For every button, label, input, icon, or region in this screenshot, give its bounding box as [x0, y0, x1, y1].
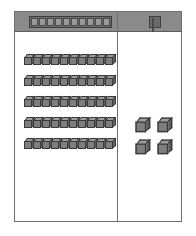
cube-front-face — [24, 57, 32, 65]
cube-front-face — [42, 78, 50, 86]
header-rod-pip — [87, 18, 94, 26]
rod-unit-cube[interactable] — [96, 138, 105, 147]
ten-rod[interactable] — [24, 138, 114, 147]
rod-unit-cube[interactable] — [105, 54, 114, 63]
rod-unit-cube[interactable] — [96, 96, 105, 105]
rod-unit-cube[interactable] — [60, 138, 69, 147]
rod-unit-cube[interactable] — [42, 96, 51, 105]
rod-unit-cube[interactable] — [24, 117, 33, 126]
cube-front-face — [87, 141, 95, 149]
cube-front-face — [87, 120, 95, 128]
cube-front-face — [24, 141, 32, 149]
rod-unit-cube[interactable] — [51, 75, 60, 84]
cube-side-face — [113, 96, 116, 106]
rod-unit-cube[interactable] — [96, 75, 105, 84]
rod-unit-cube[interactable] — [96, 54, 105, 63]
cube-front-face — [96, 78, 104, 86]
cube-front-face — [96, 99, 104, 107]
ten-rod[interactable] — [24, 54, 114, 63]
rod-unit-cube[interactable] — [24, 75, 33, 84]
rod-unit-cube[interactable] — [51, 54, 60, 63]
rod-unit-cube[interactable] — [42, 138, 51, 147]
rod-unit-cube[interactable] — [60, 117, 69, 126]
rod-unit-cube[interactable] — [60, 75, 69, 84]
rod-unit-cube[interactable] — [69, 138, 78, 147]
rod-unit-cube[interactable] — [24, 138, 33, 147]
cube-front-face — [51, 99, 59, 107]
rod-unit-cube[interactable] — [69, 75, 78, 84]
rod-unit-cube[interactable] — [60, 96, 69, 105]
rod-unit-cube[interactable] — [33, 54, 42, 63]
cube-front-face — [78, 57, 86, 65]
tens-header-rod-icon — [29, 16, 112, 28]
cube-front-face — [135, 143, 146, 154]
rod-unit-cube[interactable] — [60, 54, 69, 63]
rod-unit-cube[interactable] — [87, 96, 96, 105]
rod-unit-cube[interactable] — [78, 117, 87, 126]
rod-unit-cube[interactable] — [42, 75, 51, 84]
ten-rod[interactable] — [24, 75, 114, 84]
rod-unit-cube[interactable] — [105, 96, 114, 105]
header-rod-pip — [55, 18, 62, 26]
ten-rod[interactable] — [24, 96, 114, 105]
rod-unit-cube[interactable] — [78, 75, 87, 84]
cube-front-face — [33, 57, 41, 65]
rod-unit-cube[interactable] — [33, 117, 42, 126]
cube-side-face — [113, 75, 116, 85]
cube-front-face — [42, 120, 50, 128]
rod-unit-cube[interactable] — [78, 96, 87, 105]
cube-front-face — [60, 141, 68, 149]
loose-unit-cube[interactable] — [135, 117, 147, 129]
rod-unit-cube[interactable] — [69, 117, 78, 126]
cube-front-face — [33, 141, 41, 149]
loose-unit-cube[interactable] — [135, 139, 147, 151]
rod-unit-cube[interactable] — [33, 138, 42, 147]
header-rod-pip — [79, 18, 86, 26]
cube-front-face — [51, 78, 59, 86]
rod-unit-cube[interactable] — [69, 96, 78, 105]
cube-front-face — [105, 120, 113, 128]
rod-unit-cube[interactable] — [105, 117, 114, 126]
cube-side-face — [146, 117, 150, 131]
header-rod-pip — [71, 18, 78, 26]
cube-side-face — [168, 117, 172, 131]
rod-unit-cube[interactable] — [78, 138, 87, 147]
loose-unit-cube[interactable] — [157, 117, 169, 129]
cube-front-face — [87, 99, 95, 107]
rod-unit-cube[interactable] — [105, 75, 114, 84]
ones-cube-slot[interactable] — [152, 134, 174, 156]
rod-unit-cube[interactable] — [87, 54, 96, 63]
cube-side-face — [168, 139, 172, 153]
rod-unit-cube[interactable] — [33, 96, 42, 105]
rod-unit-cube[interactable] — [78, 54, 87, 63]
cube-front-face — [96, 120, 104, 128]
rod-unit-cube[interactable] — [69, 54, 78, 63]
ones-cube-slot[interactable] — [130, 112, 152, 134]
ones-cube-slot[interactable] — [152, 112, 174, 134]
rod-unit-cube[interactable] — [24, 96, 33, 105]
rod-unit-cube[interactable] — [87, 138, 96, 147]
rod-unit-cube[interactable] — [87, 75, 96, 84]
cube-front-face — [78, 78, 86, 86]
rod-unit-cube[interactable] — [51, 96, 60, 105]
cube-front-face — [60, 120, 68, 128]
rod-unit-cube[interactable] — [105, 138, 114, 147]
cube-front-face — [105, 141, 113, 149]
cube-front-face — [96, 141, 104, 149]
rod-unit-cube[interactable] — [42, 117, 51, 126]
ten-rod[interactable] — [24, 117, 114, 126]
ones-cube-slot[interactable] — [130, 134, 152, 156]
rod-unit-cube[interactable] — [42, 54, 51, 63]
loose-unit-cube[interactable] — [157, 139, 169, 151]
cube-front-face — [87, 57, 95, 65]
rod-unit-cube[interactable] — [87, 117, 96, 126]
rod-unit-cube[interactable] — [51, 117, 60, 126]
header-rod-pip — [95, 18, 102, 26]
rod-unit-cube[interactable] — [51, 138, 60, 147]
header-rod-pip — [63, 18, 70, 26]
rod-unit-cube[interactable] — [24, 54, 33, 63]
cube-front-face — [24, 78, 32, 86]
rod-unit-cube[interactable] — [96, 117, 105, 126]
cube-side-face — [113, 54, 116, 64]
rod-unit-cube[interactable] — [33, 75, 42, 84]
